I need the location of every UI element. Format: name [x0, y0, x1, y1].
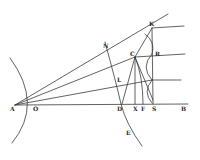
label-X: X	[133, 106, 138, 112]
label-E: E	[126, 130, 131, 136]
label-C: C	[130, 51, 135, 57]
arc-R-L	[146, 54, 152, 80]
geometric-diagram: A O N L C K R D X F S B E	[0, 0, 200, 160]
label-O: O	[33, 106, 38, 112]
label-B: B	[181, 106, 186, 112]
diagram-canvas	[0, 0, 200, 160]
ray-C-R-right	[135, 54, 185, 57]
label-R: R	[155, 51, 160, 57]
arc-through-O	[10, 58, 28, 143]
line-C-D	[122, 57, 135, 104]
label-F: F	[141, 106, 145, 112]
label-N: N	[103, 43, 108, 49]
label-S: S	[152, 106, 156, 112]
label-L: L	[117, 77, 121, 83]
label-A: A	[10, 106, 15, 112]
arc-C-F	[135, 57, 143, 104]
label-K: K	[149, 21, 154, 27]
arc-N-D-E	[105, 42, 142, 146]
line-K-S	[152, 28, 153, 104]
label-D: D	[117, 106, 122, 112]
ray-K-right	[152, 26, 184, 28]
baseline-A-B	[15, 104, 188, 105]
